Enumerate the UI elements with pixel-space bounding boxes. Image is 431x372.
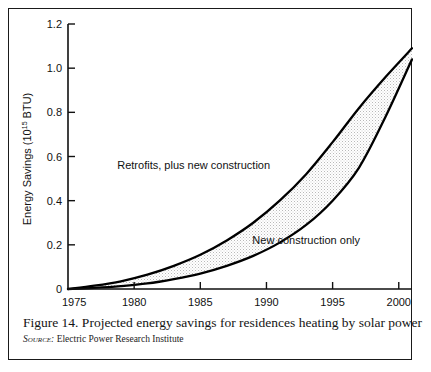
y-tick-label: 0.2 [47, 239, 62, 251]
x-tick-label: 1985 [188, 296, 212, 308]
y-axis-tick-labels: 00.20.40.60.81.01.2 [47, 18, 62, 295]
y-tick-label: 1.0 [47, 62, 62, 74]
y-axis-title: Energy Savings (1015 BTU) [21, 93, 33, 226]
x-tick-label: 1975 [62, 296, 86, 308]
x-tick-label: 1990 [254, 296, 278, 308]
source-label: Source: [23, 334, 54, 344]
y-axis-ticks [68, 24, 75, 289]
y-tick-label: 0.8 [47, 106, 62, 118]
series-label-retrofits-plus-new-construction: Retrofits, plus new construction [117, 159, 270, 171]
figure-caption-title: Figure 14. Projected energy savings for … [23, 315, 401, 332]
energy-savings-chart: 00.20.40.60.81.01.2 19751980198519901995… [9, 9, 413, 309]
figure-caption-block: Figure 14. Projected energy savings for … [9, 309, 413, 361]
y-tick-label: 0 [56, 283, 62, 295]
x-tick-label: 1980 [122, 296, 146, 308]
series-label-new-construction-only: New construction only [252, 234, 360, 246]
x-axis-ticks [134, 282, 399, 289]
y-tick-label: 1.2 [47, 18, 62, 30]
x-tick-label: 1995 [320, 296, 344, 308]
y-tick-label: 0.6 [47, 151, 62, 163]
x-tick-label: 2000 [387, 296, 411, 308]
figure-frame: 00.20.40.60.81.01.2 19751980198519901995… [8, 8, 412, 360]
chart-plot-area: 00.20.40.60.81.01.2 19751980198519901995… [9, 9, 413, 309]
svg-text:Energy Savings (1015 BTU): Energy Savings (1015 BTU) [21, 93, 33, 226]
y-tick-label: 0.4 [47, 195, 62, 207]
x-axis-tick-labels: 197519801985199019952000 [62, 296, 411, 308]
source-text: Electric Power Research Institute [57, 334, 184, 344]
figure-source-line: Source: Electric Power Research Institut… [23, 334, 401, 344]
